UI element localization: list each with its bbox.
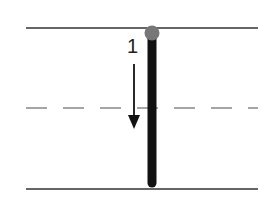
- diagram-canvas: [0, 0, 274, 207]
- pivot-dot: [145, 26, 160, 41]
- arrow-head-icon: [128, 115, 140, 129]
- step-label: 1: [127, 36, 138, 56]
